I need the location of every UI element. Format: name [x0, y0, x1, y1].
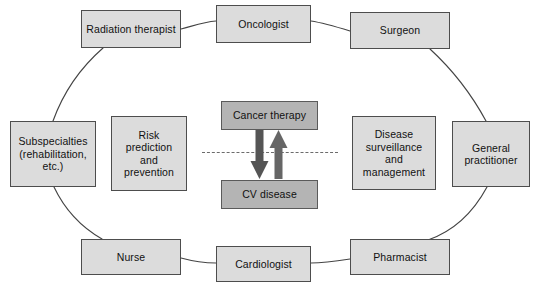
- node-label: Cardiologist: [235, 258, 292, 271]
- node-risk-prediction-and-prevention[interactable]: Risk prediction and prevention: [111, 116, 187, 191]
- node-label: CV disease: [242, 188, 297, 201]
- connector-gp-to-pharmacist: [428, 187, 487, 240]
- node-nurse[interactable]: Nurse: [81, 239, 181, 275]
- node-label: Nurse: [117, 251, 146, 264]
- up-arrow-icon: [269, 130, 288, 180]
- node-label: Subspecialties (rehabilitation, etc.): [18, 135, 87, 173]
- node-cardiologist[interactable]: Cardiologist: [216, 246, 311, 282]
- down-arrow-icon: [250, 130, 269, 180]
- node-radiation-therapist[interactable]: Radiation therapist: [81, 10, 181, 48]
- diagram-canvas: Radiation therapist Oncologist Surgeon G…: [0, 0, 538, 285]
- connector-oncologist-to-surgeon: [311, 21, 350, 31]
- node-cancer-therapy[interactable]: Cancer therapy: [221, 101, 318, 130]
- connector-radiation-to-oncologist: [181, 21, 216, 29]
- node-oncologist[interactable]: Oncologist: [216, 5, 311, 43]
- node-label: General practitioner: [464, 142, 517, 167]
- node-disease-surveillance-and-management[interactable]: Disease surveillance and management: [352, 116, 436, 190]
- node-label: Oncologist: [238, 18, 289, 31]
- node-label: Surgeon: [380, 24, 420, 37]
- node-subspecialties[interactable]: Subspecialties (rehabilitation, etc.): [10, 121, 96, 187]
- node-pharmacist[interactable]: Pharmacist: [350, 239, 450, 275]
- node-label: Risk prediction and prevention: [124, 129, 174, 179]
- connector-pharmacist-to-cardiologist: [311, 259, 350, 263]
- node-label: Cancer therapy: [233, 109, 306, 122]
- node-label: Radiation therapist: [86, 23, 175, 36]
- connector-surgeon-to-gp: [430, 49, 486, 121]
- node-label: Disease surveillance and management: [363, 128, 425, 178]
- node-cv-disease[interactable]: CV disease: [221, 180, 318, 209]
- connector-nurse-to-subspecialties: [54, 187, 102, 239]
- node-label: Pharmacist: [373, 251, 427, 264]
- connector-subspecialties-to-radiation: [53, 48, 103, 121]
- node-general-practitioner[interactable]: General practitioner: [452, 121, 530, 187]
- node-surgeon[interactable]: Surgeon: [350, 12, 450, 49]
- connector-cardiologist-to-nurse: [181, 258, 216, 263]
